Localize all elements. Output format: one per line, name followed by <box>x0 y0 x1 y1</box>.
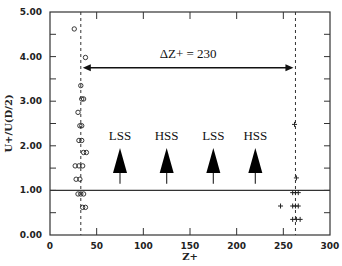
circle-marker <box>81 192 85 196</box>
circle-marker <box>72 27 76 31</box>
x-tick-label: 250 <box>274 241 293 251</box>
x-tick-label: 0 <box>47 241 53 251</box>
y-tick-label: 3.00 <box>20 96 42 106</box>
y-tick-label: 5.00 <box>20 7 42 17</box>
y-axis: 0.001.002.003.004.005.00 <box>20 7 330 240</box>
circle-marker <box>80 138 84 142</box>
x-tick-label: 300 <box>321 241 340 251</box>
x-tick-label: 150 <box>181 241 200 251</box>
arrow-left-head-icon <box>83 64 91 71</box>
region-label: HSS <box>243 128 267 143</box>
cross-marker <box>298 217 303 222</box>
circle-marker <box>76 110 80 114</box>
x-tick-label: 100 <box>134 241 153 251</box>
y-tick-label: 1.00 <box>20 185 42 195</box>
arrow-up-icon <box>160 148 174 173</box>
circle-marker <box>83 55 87 59</box>
y-tick-label: 2.00 <box>20 141 42 151</box>
y-tick-label: 4.00 <box>20 52 42 62</box>
x-axis-label: Z+ <box>182 251 198 262</box>
annotations: ΔZ+ = 230LSSHSSLSSHSS <box>83 46 294 184</box>
cross-marker <box>292 122 297 127</box>
region-label: HSS <box>155 128 179 143</box>
circle-marker <box>83 205 87 209</box>
y-axis-label: U+/U(D/2) <box>3 94 14 152</box>
arrow-right-head-icon <box>285 64 293 71</box>
circle-marker <box>84 150 88 154</box>
x-tick-label: 200 <box>227 241 246 251</box>
arrow-up-icon <box>206 148 220 173</box>
region-label: LSS <box>109 128 131 143</box>
cross-marker <box>294 175 299 180</box>
region-label: LSS <box>202 128 224 143</box>
y-tick-label: 0.00 <box>20 230 42 240</box>
cross-marker <box>296 204 301 209</box>
cross-marker <box>278 204 283 209</box>
arrow-up-icon <box>248 148 262 173</box>
arrow-up-icon <box>113 148 127 173</box>
delta-label: ΔZ+ = 230 <box>160 46 217 61</box>
x-tick-label: 50 <box>90 241 103 251</box>
scatter-chart: 050100150200250300 0.001.002.003.004.005… <box>0 0 342 266</box>
